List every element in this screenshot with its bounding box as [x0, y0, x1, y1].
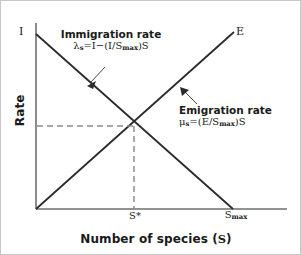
emigration-numerator-E: E	[202, 116, 209, 127]
immigration-rate-formula: λs=I−(I/Smax)S	[51, 41, 171, 53]
y-axis-title: Rate	[14, 82, 27, 138]
emigration-line-endpoint-label-E: E	[236, 26, 244, 38]
x-axis-title-prefix: Number of species (	[80, 232, 218, 246]
y-axis-max-label-I: I	[19, 26, 23, 38]
immigration-annotation-title: Immigration rate	[61, 28, 162, 40]
x-axis-title-variable: S	[218, 232, 226, 246]
x-tick-label-s-max: Smax	[216, 210, 256, 222]
species-equilibrium-chart: I E Rate Number of species (S) S* Smax I…	[0, 0, 301, 255]
emigration-annotation-title: Emigration rate	[179, 104, 272, 116]
immigration-rate-annotation: Immigration rate λs=I−(I/Smax)S	[51, 29, 171, 53]
emigration-rate-annotation: Emigration rate μs=(E/Smax)S	[179, 105, 301, 129]
immigration-trailing-variable: S	[142, 40, 149, 51]
x-tick-label-s-max-subscript: max	[232, 213, 248, 221]
emigration-equals-sign: =	[189, 116, 197, 127]
emigration-denominator-subscript: max	[219, 121, 235, 129]
emigration-annotation-leader	[184, 91, 197, 104]
immigration-equals-sign: =	[83, 40, 91, 51]
x-tick-label-s-max-base: S	[225, 209, 232, 220]
emigration-rate-formula: μs=(E/Smax)S	[179, 117, 301, 129]
emigration-trailing-variable: S	[239, 116, 246, 127]
x-axis-title-suffix: )	[226, 232, 232, 246]
immigration-denominator-subscript: max	[122, 45, 138, 53]
x-axis-title: Number of species (S)	[61, 233, 251, 246]
immigration-minus-sign: −	[96, 40, 104, 51]
immigration-annotation-leader	[91, 67, 105, 82]
x-tick-label-s-star: S*	[119, 211, 151, 222]
